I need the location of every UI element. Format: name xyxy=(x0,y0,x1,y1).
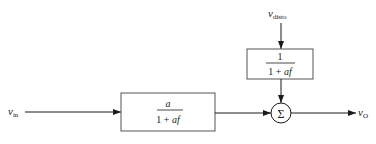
svg-text:vin: vin xyxy=(8,105,19,119)
disturbance-denominator: 1 + af xyxy=(268,66,293,77)
disturbance-transfer-block: 1 1 + af xyxy=(247,49,313,79)
main-denominator: 1 + af xyxy=(156,114,181,125)
summing-junction: Σ xyxy=(271,103,291,123)
svg-text:vdisto: vdisto xyxy=(268,7,287,21)
output-label-vo: vO xyxy=(358,106,368,120)
main-transfer-block: a 1 + af xyxy=(121,93,215,131)
input-label-vdisto: vdisto xyxy=(268,7,287,21)
main-numerator: a xyxy=(166,98,171,109)
svg-text:vO: vO xyxy=(358,106,368,120)
block-diagram: vin a 1 + af vdisto 1 1 + af Σ vO xyxy=(0,0,376,144)
disturbance-numerator: 1 xyxy=(278,51,283,62)
sigma-icon: Σ xyxy=(278,107,285,121)
input-label-vin: vin xyxy=(8,105,19,119)
